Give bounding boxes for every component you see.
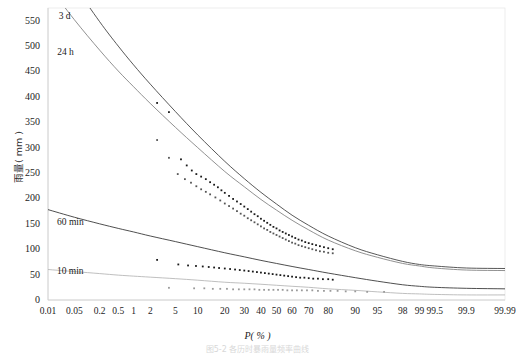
data-point (156, 102, 158, 104)
data-point (234, 269, 236, 271)
data-point (213, 184, 215, 186)
x-tick-99.99: 99.99 (487, 306, 520, 316)
data-point (186, 165, 188, 167)
data-point (383, 291, 385, 293)
data-point (303, 277, 305, 279)
data-point (184, 178, 186, 180)
data-point (272, 273, 274, 275)
data-point (279, 236, 281, 238)
points-60-min (156, 259, 333, 281)
data-point (301, 289, 303, 291)
x-axis-title: P( % ) (0, 330, 515, 341)
data-point (288, 240, 290, 242)
data-point (327, 247, 329, 249)
data-point (247, 217, 249, 219)
data-point (232, 198, 234, 200)
data-point (298, 239, 300, 241)
data-point (209, 181, 211, 183)
data-point (311, 248, 313, 250)
data-point (195, 185, 197, 187)
data-point (282, 289, 284, 291)
data-point (243, 288, 245, 290)
data-point (252, 271, 254, 273)
data-point (291, 236, 293, 238)
y-tick-450: 450 (10, 65, 40, 76)
y-tick-0: 0 (10, 294, 40, 305)
data-point (218, 267, 220, 269)
data-point (354, 290, 356, 292)
data-point (248, 270, 250, 272)
data-point (266, 222, 268, 224)
data-point (308, 242, 310, 244)
data-point (264, 272, 266, 274)
y-tick-100: 100 (10, 243, 40, 254)
data-point (240, 203, 242, 205)
y-tick-300: 300 (10, 142, 40, 153)
data-point (304, 241, 306, 243)
data-point (240, 213, 242, 215)
curve-label-60-min: 60 min (57, 217, 84, 227)
data-point (304, 246, 306, 248)
data-point (254, 221, 256, 223)
data-point (260, 218, 262, 220)
curve-label-10-min: 10 min (57, 266, 84, 276)
data-point (260, 272, 262, 274)
data-point (323, 251, 325, 253)
figure-caption: 图5-2 各历时暴雨量频率曲线 (0, 343, 515, 354)
x-tick-99.5: 99.5 (417, 306, 453, 316)
data-point (258, 289, 260, 291)
data-point (279, 230, 281, 232)
y-tick-50: 50 (10, 269, 40, 280)
curve-label-3-d: 3 d (59, 11, 71, 21)
data-point (219, 288, 221, 290)
y-tick-400: 400 (10, 91, 40, 102)
data-point (229, 268, 231, 270)
data-point (282, 231, 284, 233)
data-point (345, 290, 347, 292)
data-point (257, 223, 259, 225)
data-point (332, 248, 334, 250)
data-point (256, 271, 258, 273)
data-point (187, 265, 189, 267)
data-point (285, 239, 287, 241)
data-point (254, 288, 256, 290)
points-3-d (156, 102, 333, 250)
data-point (236, 210, 238, 212)
data-point (221, 189, 223, 191)
data-point (312, 278, 314, 280)
data-point (193, 287, 195, 289)
data-point (308, 247, 310, 249)
data-point (269, 224, 271, 226)
data-point (213, 267, 215, 269)
data-point (277, 289, 279, 291)
data-point (315, 249, 317, 251)
data-point (298, 244, 300, 246)
data-point (268, 289, 270, 291)
data-point (168, 157, 170, 159)
data-point (254, 213, 256, 215)
curve-label-24-h: 24 h (57, 47, 74, 57)
data-point (219, 200, 221, 202)
data-point (273, 289, 275, 291)
data-point (250, 211, 252, 213)
data-point (273, 226, 275, 228)
data-point (257, 215, 259, 217)
data-point (177, 173, 179, 175)
y-tick-500: 500 (10, 40, 40, 51)
data-point (283, 275, 285, 277)
data-point (301, 240, 303, 242)
data-point (337, 290, 339, 292)
data-point (228, 205, 230, 207)
data-point (205, 191, 207, 193)
data-point (249, 288, 251, 290)
points-24-h (156, 139, 333, 254)
data-point (323, 290, 325, 292)
data-point (205, 178, 207, 180)
data-point (332, 279, 334, 281)
x-tick-99.9: 99.9 (448, 306, 484, 316)
y-tick-350: 350 (10, 116, 40, 127)
data-point (232, 288, 234, 290)
data-point (212, 288, 214, 290)
data-point (228, 195, 230, 197)
